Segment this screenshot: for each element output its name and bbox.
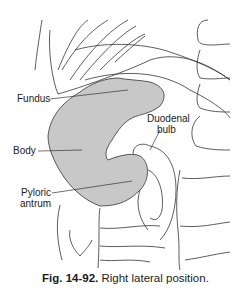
label-bulb: bulb [157, 124, 176, 135]
caption-number: Fig. 14-92. [42, 272, 98, 284]
caption-text: Right lateral position. [101, 272, 208, 284]
label-pyloric: Pyloric [21, 187, 51, 198]
figure-caption: Fig. 14-92. Right lateral position. [42, 272, 209, 284]
label-duodenal: Duodenal [147, 113, 190, 124]
label-antrum: antrum [20, 198, 51, 209]
figure: Fundus Duodenal bulb Body Pyloric antrum… [0, 0, 246, 294]
label-fundus: Fundus [17, 93, 50, 104]
label-body: Body [13, 145, 36, 156]
leader-lines [0, 0, 246, 294]
